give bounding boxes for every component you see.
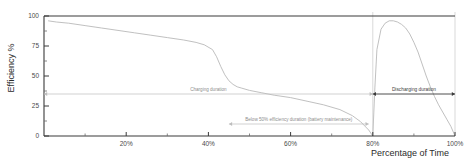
tick-label-group: 20%40%60%80%100%0255075100 <box>28 12 463 147</box>
y-tick-label: 50 <box>32 72 40 79</box>
y-tick-label: 0 <box>35 132 39 139</box>
x-tick-label: 40% <box>202 140 215 147</box>
arrow-head-right-icon <box>365 122 368 126</box>
x-tick-label: 60% <box>284 140 297 147</box>
chart-canvas: 20%40%60%80%100%0255075100 Charging dura… <box>0 0 468 166</box>
y-axis-title: Efficiency % <box>6 44 16 93</box>
efficiency-chart: 20%40%60%80%100%0255075100 Charging dura… <box>0 0 468 166</box>
x-tick-label: 100% <box>447 140 464 147</box>
annotation-label: Below 50% efficiency duration (battery m… <box>245 117 353 122</box>
annotation-group: Charging durationBelow 50% efficiency du… <box>44 87 455 126</box>
arrow-head-right-icon <box>452 92 455 96</box>
annotation-below-50-efficiency-duration: Below 50% efficiency duration (battery m… <box>229 117 369 126</box>
divider-group <box>373 12 455 136</box>
arrow-head-left-icon <box>229 122 232 126</box>
y-tick-label: 75 <box>32 42 40 49</box>
y-tick-label: 100 <box>28 12 39 19</box>
annotation-label: Discharging duration <box>392 87 436 92</box>
annotation-charging-duration: Charging duration <box>44 87 373 96</box>
annotation-discharging-duration: Discharging duration <box>373 87 455 96</box>
y-tick-label: 25 <box>32 102 40 109</box>
x-tick-label: 80% <box>366 140 379 147</box>
annotation-label: Charging duration <box>190 87 227 92</box>
arrow-head-right-icon <box>370 92 373 96</box>
series-discharging-efficiency <box>373 21 455 136</box>
x-tick-label: 20% <box>120 140 133 147</box>
x-axis-title: Percentage of Time <box>371 148 449 158</box>
